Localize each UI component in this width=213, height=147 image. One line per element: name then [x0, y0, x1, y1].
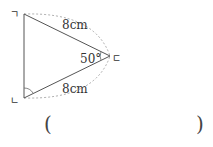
angle-label: 50°	[80, 52, 101, 66]
vertex-label-bottom-left: ㄴ	[10, 95, 19, 106]
vertex-label-top-left: ㄱ	[10, 9, 19, 20]
answer-open-paren: (	[44, 112, 52, 136]
answer-close-paren: )	[196, 112, 204, 136]
side-length-bottom: 8cm	[62, 82, 88, 96]
vertex-label-right: ㄷ	[112, 53, 121, 64]
angle-arc-bottom-left	[24, 88, 33, 93]
triangle-diagram: ㄱ ㄴ ㄷ 8cm 8cm 50°	[0, 0, 213, 147]
side-length-top: 8cm	[62, 18, 88, 32]
